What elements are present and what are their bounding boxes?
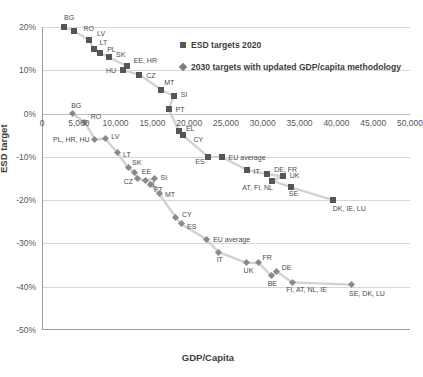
data-point-label: FR [262, 254, 271, 261]
chart-legend: ESD targets 2020 2030 targets with updat… [180, 40, 401, 84]
data-point-marker [106, 54, 112, 60]
data-point-label: PL, HR, HU [53, 136, 90, 143]
x-tick-label: 15,000 [139, 119, 165, 127]
data-point-marker [97, 50, 103, 56]
y-tick-label: -20% [0, 196, 36, 204]
data-point-label: MT [165, 191, 175, 198]
legend-entry-esd-targets-2020: ESD targets 2020 [180, 40, 401, 50]
legend-square-marker-icon [180, 42, 186, 48]
data-point-marker [330, 197, 336, 203]
y-tick-label: -40% [0, 283, 36, 291]
x-tick-label: 50,000 [397, 119, 423, 127]
data-point-label: SE, DK, LU [349, 290, 385, 297]
data-point-label: AT, FI, NL [242, 184, 273, 191]
data-point-label: ES [187, 223, 196, 230]
data-point-label: LV [111, 133, 119, 140]
data-point-label: SK [116, 51, 125, 58]
data-point-marker [91, 46, 97, 52]
data-point-label: LT [100, 39, 108, 46]
x-axis-title: GDP/Capita [0, 352, 416, 363]
data-point-marker [219, 154, 225, 160]
data-point-marker [280, 173, 286, 179]
data-point-label: RO [91, 113, 102, 120]
y-tick-label: 20% [0, 23, 36, 31]
data-point-marker [205, 154, 211, 160]
data-point-label: LT [123, 151, 131, 158]
data-point-marker [86, 37, 92, 43]
data-point-marker [244, 167, 250, 173]
y-tick-label: 10% [0, 66, 36, 74]
x-tick-label: 20,000 [176, 119, 202, 127]
legend-entry-2030-targets: 2030 targets with updated GDP/capita met… [180, 62, 401, 72]
data-point-label: DE [282, 264, 292, 271]
data-point-label: EE, HR [134, 57, 157, 64]
x-tick-label: 5,000 [68, 119, 89, 127]
data-point-label: BG [71, 102, 81, 109]
data-point-label: SK [132, 159, 141, 166]
data-point-label: BG [64, 14, 74, 21]
data-point-label: FI, AT, NL, IE [286, 286, 327, 293]
y-tick-label: 0% [0, 110, 36, 118]
data-point-label: EE [142, 168, 151, 175]
x-tick-label: 30,000 [250, 119, 276, 127]
data-point-marker [136, 72, 142, 78]
data-point-label: CZ [124, 178, 133, 185]
data-point-label: PT [176, 106, 185, 113]
legend-diamond-marker-icon [179, 63, 187, 71]
data-point-label: BE [268, 280, 277, 287]
data-point-label: DK, IE, LU [333, 205, 366, 212]
data-point-label: LV [97, 30, 105, 37]
x-tick-label: 45,000 [360, 119, 386, 127]
data-point-marker [61, 24, 67, 30]
data-point-marker [171, 93, 177, 99]
data-point-label: EU average [229, 154, 266, 161]
data-point-marker [120, 67, 126, 73]
data-point-label: SE [289, 190, 298, 197]
data-point-marker [166, 106, 172, 112]
x-tick-label: 10,000 [103, 119, 129, 127]
data-point-label: PL [107, 46, 116, 53]
data-point-label: EU average [213, 236, 250, 243]
data-point-label: MT [164, 79, 174, 86]
data-point-label: CY [182, 211, 192, 218]
x-tick-label: 35,000 [287, 119, 313, 127]
x-tick-label: 0 [40, 119, 45, 127]
data-point-marker [71, 28, 77, 34]
data-point-marker [264, 171, 270, 177]
data-point-label: RO [83, 25, 94, 32]
data-point-label: UK [290, 172, 300, 179]
y-axis-title: ESD target [0, 124, 9, 173]
data-point-label: IT [217, 256, 223, 263]
y-tick-label: -50% [0, 326, 36, 334]
legend-label: 2030 targets with updated GDP/capita met… [191, 62, 401, 72]
data-point-marker [180, 132, 186, 138]
x-tick-label: 25,000 [213, 119, 239, 127]
data-point-label: IT [254, 168, 260, 175]
data-point-label: SI [161, 174, 168, 181]
data-point-label: SI [181, 91, 188, 98]
data-point-label: ES [195, 158, 204, 165]
data-point-label: HU [106, 67, 116, 74]
data-point-label: CY [194, 136, 204, 143]
data-point-label: CZ [146, 72, 155, 79]
data-point-marker [158, 87, 164, 93]
x-tick-label: 40,000 [323, 119, 349, 127]
y-tick-label: -30% [0, 239, 36, 247]
legend-label: ESD targets 2020 [191, 40, 261, 50]
data-point-label: UK [244, 267, 254, 274]
